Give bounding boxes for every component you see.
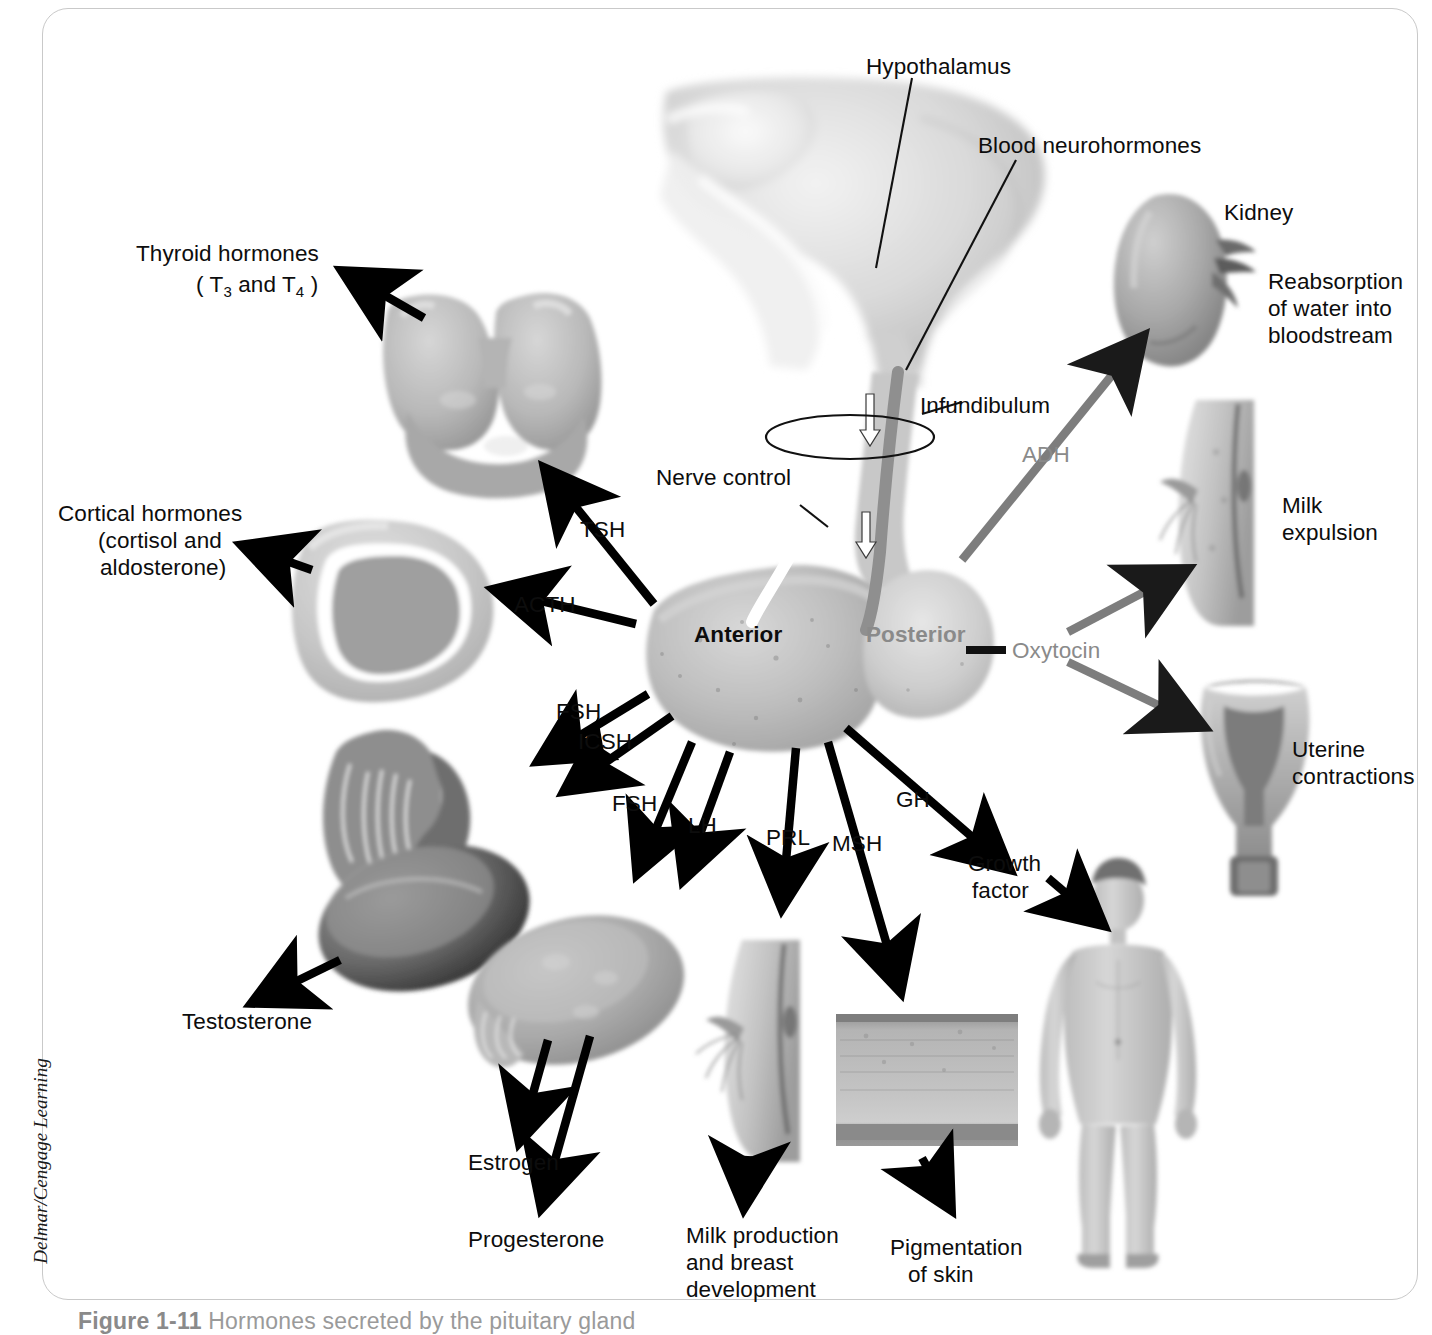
label-cortical-hormones-line2: (cortisol and — [98, 527, 222, 554]
figure-caption-text: Hormones secreted by the pituitary gland — [208, 1308, 635, 1334]
label-growth-factor-line1: Growth — [968, 850, 1041, 877]
label-icsh: ICSH — [578, 728, 632, 755]
label-adh: ADH — [1022, 441, 1070, 468]
label-nerve-control: Nerve control — [656, 464, 791, 491]
label-milk-expulsion-line1: Milk — [1282, 492, 1322, 519]
figure-caption: Figure 1-11 Hormones secreted by the pit… — [78, 1308, 636, 1335]
label-thyroid-hormones-line1: Thyroid hormones — [136, 240, 319, 267]
label-estrogen: Estrogen — [468, 1149, 559, 1176]
label-pigmentation-line1: Pigmentation — [890, 1234, 1023, 1261]
label-fsh-ovary: FSH — [612, 790, 657, 817]
label-uterine-line2: contractions — [1292, 763, 1415, 790]
label-anterior-lobe: Anterior — [694, 621, 782, 648]
label-lh: LH — [688, 812, 717, 839]
label-progesterone: Progesterone — [468, 1226, 604, 1253]
label-milk-expulsion-line2: expulsion — [1282, 519, 1378, 546]
figure-caption-number: Figure 1-11 — [78, 1308, 202, 1334]
label-hypothalamus: Hypothalamus — [866, 53, 1011, 80]
label-reabsorption-line2: of water into — [1268, 295, 1392, 322]
label-milk-production-line2: and breast — [686, 1249, 793, 1276]
label-testosterone: Testosterone — [182, 1008, 312, 1035]
label-cortical-hormones-line1: Cortical hormones — [58, 500, 242, 527]
label-milk-production-line1: Milk production — [686, 1222, 839, 1249]
page-frame — [42, 8, 1418, 1300]
label-oxytocin: Oxytocin — [1012, 637, 1100, 664]
label-infundibulum: Infundibulum — [920, 392, 1050, 419]
label-tsh: TSH — [580, 516, 625, 543]
label-blood-neurohormones: Blood neurohormones — [978, 132, 1201, 159]
label-acth: ACTH — [514, 591, 576, 618]
label-cortical-hormones-line3: aldosterone) — [100, 554, 226, 581]
label-reabsorption-line3: bloodstream — [1268, 322, 1393, 349]
label-pigmentation-line2: of skin — [908, 1261, 974, 1288]
label-uterine-line1: Uterine — [1292, 736, 1365, 763]
label-reabsorption-line1: Reabsorption — [1268, 268, 1403, 295]
publisher-credit: Delmar/Cengage Learning — [30, 1056, 52, 1266]
label-thyroid-hormones-line2: ( T3 and T4 ) — [196, 271, 318, 305]
label-msh: MSH — [832, 830, 882, 857]
label-fsh-testis: FSH — [556, 698, 601, 725]
label-growth-factor-line2: factor — [972, 877, 1029, 904]
label-milk-production-line3: development — [686, 1276, 816, 1303]
label-prl: PRL — [766, 824, 810, 851]
label-kidney: Kidney — [1224, 199, 1293, 226]
label-posterior-lobe: Posterior — [866, 621, 966, 648]
label-gh: GH — [896, 786, 930, 813]
